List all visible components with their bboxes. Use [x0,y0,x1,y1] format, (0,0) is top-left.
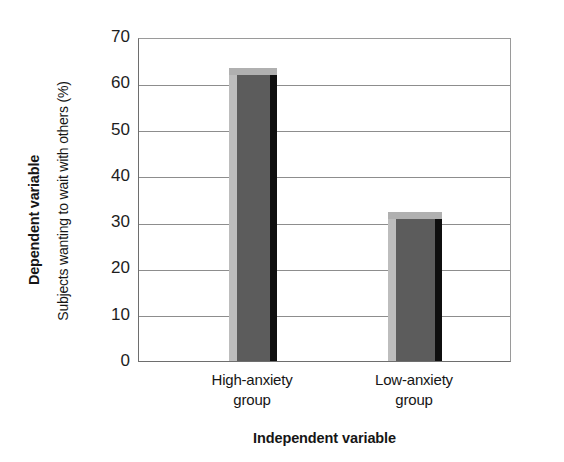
bar-top-face [388,212,442,219]
bar-front-face [237,74,270,361]
bar-chart-figure: Dependent variable Subjects wanting to w… [0,0,564,462]
gridline [139,316,510,317]
bar-front-face [396,218,435,361]
x-category-label-line: High-anxiety [212,371,293,388]
gridline [139,270,510,271]
bar-side-face [270,68,277,361]
bar [388,212,442,361]
y-tick-label: 50 [92,120,130,140]
gridline [139,177,510,178]
gridline [139,85,510,86]
y-tick-label: 0 [92,351,130,371]
x-category-label-line: Low-anxiety [375,371,453,388]
y-tick-label: 70 [92,27,130,47]
gridline [139,224,510,225]
y-tick-label: 30 [92,212,130,232]
bar [229,68,277,361]
y-axis-title: Subjects wanting to wait with others (%) [55,36,71,366]
x-axis-title: Independent variable [138,430,511,446]
bar-left-face [229,74,237,361]
y-tick-label: 60 [92,73,130,93]
bar-side-face [435,212,442,361]
bar-left-face [388,218,396,361]
x-category-label: High-anxietygroup [167,370,337,411]
x-category-label-line: group [167,390,337,410]
y-axis-outer-title: Dependent variable [26,120,42,320]
y-tick-label: 20 [92,258,130,278]
y-tick-label: 40 [92,166,130,186]
x-category-label-line: group [329,390,499,410]
y-tick-label: 10 [92,305,130,325]
gridline [139,131,510,132]
bar-top-face [229,68,277,75]
plot-area [138,38,511,362]
x-category-label: Low-anxietygroup [329,370,499,411]
